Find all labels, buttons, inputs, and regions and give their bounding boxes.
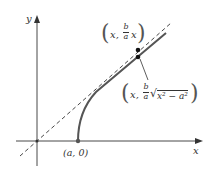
label-prefix: x, — [130, 90, 139, 100]
left-paren: ( — [121, 82, 130, 104]
right-paren: ) — [137, 22, 146, 44]
fraction: b a — [143, 83, 149, 101]
numerator: b — [123, 23, 128, 31]
left-paren: ( — [101, 22, 110, 44]
hyperbola-diagram: y x (a, 0) ( x, b a x ) ( x, b a √ x² − … — [0, 0, 212, 169]
radicand: x² − a² — [157, 90, 188, 101]
asymptote-point — [136, 48, 141, 53]
x-axis-arrow-icon — [195, 138, 203, 144]
denominator: a — [124, 33, 129, 41]
denominator: a — [144, 93, 149, 101]
y-axis-arrow-icon — [34, 15, 40, 23]
vertex-point — [76, 139, 80, 143]
x-axis-label: x — [193, 146, 199, 156]
numerator: b — [143, 83, 148, 91]
leader-line — [140, 59, 148, 80]
label-suffix: x — [131, 30, 137, 40]
right-paren: ) — [190, 82, 199, 104]
origin-point — [36, 140, 39, 143]
y-axis-label: y — [26, 14, 32, 24]
label-prefix: x, — [110, 30, 119, 40]
fraction: b a — [123, 23, 129, 41]
curve-point — [136, 55, 141, 60]
sqrt-icon: √ — [150, 88, 157, 99]
vertex-label: (a, 0) — [63, 148, 88, 158]
